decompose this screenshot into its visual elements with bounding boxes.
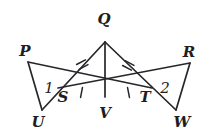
- tick-VT-single: [128, 88, 130, 98]
- vertex-label-W: W: [174, 115, 191, 130]
- angle-label-2: 2: [160, 81, 170, 96]
- vertex-label-Q: Q: [97, 12, 110, 27]
- vertex-label-T: T: [139, 90, 150, 105]
- vertex-label-S: S: [58, 90, 69, 105]
- vertex-label-U: U: [31, 115, 44, 130]
- vertex-label-P: P: [19, 44, 30, 59]
- vertex-label-R: R: [183, 45, 195, 60]
- vertex-label-V: V: [99, 106, 111, 121]
- figure-lines: [28, 42, 190, 110]
- segment-R-to-W: [176, 63, 190, 110]
- tick-SV-single: [81, 88, 83, 98]
- angle-label-1: 1: [44, 81, 54, 96]
- segment-P-to-U: [28, 62, 42, 110]
- geometry-figure: P Q R S T U V W 1 2: [0, 0, 208, 135]
